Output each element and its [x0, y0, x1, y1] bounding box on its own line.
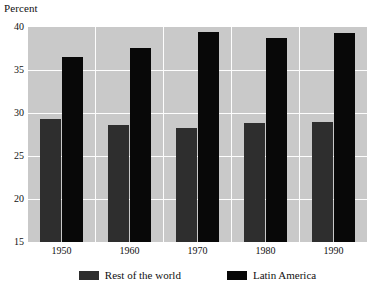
bar-rest-of-the-world-1970	[176, 128, 197, 242]
y-tick-label: 20	[0, 194, 24, 204]
bar-latin-america-1970	[198, 32, 219, 242]
chart-legend: Rest of the world Latin America	[28, 267, 367, 283]
x-tick-label: 1960	[96, 245, 163, 257]
y-axis-title: Percent	[4, 2, 38, 14]
legend-entry-latin-america: Latin America	[227, 269, 316, 281]
legend-label: Latin America	[253, 269, 316, 281]
legend-label: Rest of the world	[105, 269, 181, 281]
bar-group-1970	[164, 27, 231, 242]
bar-group-1950	[28, 27, 95, 242]
bar-chart-figure: Percent 40 35 30 25 20 15	[0, 0, 374, 291]
bar-latin-america-1990	[334, 33, 355, 242]
legend-entry-rest-of-the-world: Rest of the world	[79, 269, 181, 281]
bar-rest-of-the-world-1950	[40, 119, 61, 242]
bar-rest-of-the-world-1980	[244, 123, 265, 242]
y-tick-label: 15	[0, 237, 24, 247]
x-axis-tick-labels: 1950 1960 1970 1980 1990	[28, 245, 367, 259]
y-tick-label: 35	[0, 65, 24, 75]
x-tick-label: 1980	[232, 245, 299, 257]
y-tick-label: 40	[0, 22, 24, 32]
bar-group-1980	[232, 27, 299, 242]
y-tick-label: 30	[0, 108, 24, 118]
bar-latin-america-1960	[130, 48, 151, 242]
bar-latin-america-1980	[266, 38, 287, 242]
bar-group-1990	[300, 27, 367, 242]
bar-rest-of-the-world-1960	[108, 125, 129, 242]
x-tick-label: 1970	[164, 245, 231, 257]
legend-swatch-icon	[79, 271, 99, 280]
plot-area	[28, 27, 367, 242]
x-tick-label: 1950	[28, 245, 95, 257]
x-tick-label: 1990	[300, 245, 367, 257]
bar-group-1960	[96, 27, 163, 242]
y-axis-tick-labels: 40 35 30 25 20 15	[0, 27, 24, 242]
bar-latin-america-1950	[62, 57, 83, 242]
bar-rest-of-the-world-1990	[312, 122, 333, 242]
legend-swatch-icon	[227, 271, 247, 280]
y-tick-label: 25	[0, 151, 24, 161]
